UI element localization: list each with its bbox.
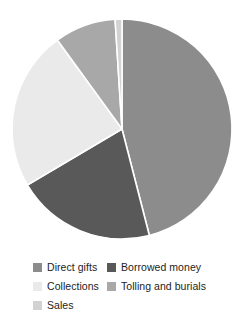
legend-label-tolling-and-burials: Tolling and burials [121, 281, 206, 292]
legend-item-borrowed-money[interactable]: Borrowed money [107, 258, 237, 277]
pie-slice-group [12, 19, 232, 239]
legend-label-collections: Collections [47, 281, 99, 292]
legend-swatch-sales [33, 301, 42, 310]
legend-label-borrowed-money: Borrowed money [121, 262, 201, 273]
pie-chart-svg [0, 0, 246, 256]
legend-swatch-direct-gifts [33, 263, 42, 272]
pie-chart-plot-area [0, 0, 246, 256]
legend-item-tolling-and-burials[interactable]: Tolling and burials [107, 277, 237, 296]
legend-label-direct-gifts: Direct gifts [47, 262, 97, 273]
legend-item-direct-gifts[interactable]: Direct gifts [33, 258, 107, 277]
legend-swatch-borrowed-money [107, 263, 116, 272]
legend-column-right: Borrowed money Tolling and burials [107, 258, 237, 296]
legend-item-sales[interactable]: Sales [33, 296, 107, 315]
pie-chart-figure: Direct gifts Collections Sales Borrowed … [0, 0, 246, 323]
legend-column-left: Direct gifts Collections Sales [33, 258, 107, 315]
legend-swatch-tolling-and-burials [107, 282, 116, 291]
chart-legend: Direct gifts Collections Sales Borrowed … [0, 258, 246, 323]
legend-label-sales: Sales [47, 300, 74, 311]
legend-swatch-collections [33, 282, 42, 291]
legend-item-collections[interactable]: Collections [33, 277, 107, 296]
